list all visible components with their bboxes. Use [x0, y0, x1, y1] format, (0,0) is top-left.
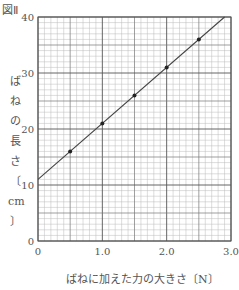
data-point — [197, 37, 201, 41]
y-tick-label: 20 — [21, 124, 34, 135]
x-tick-label: 3.0 — [223, 246, 239, 257]
x-axis-label: ばねに加えた力の大きさ〔N〕 — [66, 270, 219, 286]
fit-line-group — [38, 17, 225, 179]
fit-line — [38, 17, 225, 179]
data-point — [100, 121, 104, 125]
data-point — [133, 93, 137, 97]
y-tick-label: 40 — [21, 12, 34, 23]
x-tick-label: 1.0 — [94, 246, 110, 257]
data-point — [68, 149, 72, 153]
x-tick-label: 0 — [35, 246, 41, 257]
y-tick-label: 10 — [21, 180, 34, 191]
y-tick-label: 30 — [21, 68, 34, 79]
data-point — [165, 65, 169, 69]
x-tick-label: 2.0 — [159, 246, 175, 257]
chart: 01.02.03.0010203040 — [0, 0, 239, 290]
y-tick-label: 0 — [28, 236, 34, 247]
